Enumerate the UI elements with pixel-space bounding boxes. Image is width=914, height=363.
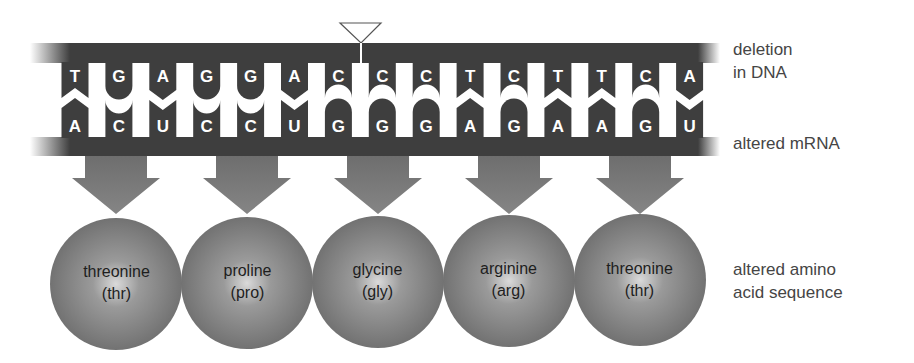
svg-text:C: C [420,67,432,86]
svg-text:T: T [465,67,476,86]
dna-base-T: T [457,62,484,98]
amino-acid-label: altered amino acid sequence [733,258,843,304]
dna-base-C: C [369,62,396,98]
dna-base-A: A [281,62,308,100]
dna-base-C: C [632,62,659,98]
svg-text:C: C [332,67,344,86]
svg-text:A: A [288,67,300,86]
dna-strand: TGAGGACCCTCTTCA [30,43,720,100]
dna-base-G: G [237,62,264,100]
mrna-base-U: U [149,100,176,138]
svg-text:C: C [508,67,520,86]
amino-acid-label-line2: acid sequence [733,281,843,304]
svg-text:U: U [683,117,695,136]
mrna-base-U: U [281,100,308,138]
svg-text:C: C [376,67,388,86]
dna-base-C: C [501,62,528,98]
svg-text:G: G [200,67,213,86]
down-arrow-icon [334,156,422,214]
svg-text:T: T [597,67,608,86]
amino-acid-1: threonine (thr) [51,261,182,305]
mrna-base-G: G [369,99,396,139]
amino-acid-name: threonine [574,258,705,280]
svg-text:A: A [596,117,608,136]
svg-text:T: T [70,67,81,86]
dna-base-T: T [62,62,89,98]
down-arrow-icon [203,156,291,214]
dna-base-C: C [325,62,352,98]
svg-text:C: C [640,67,652,86]
down-arrow-icon [465,156,553,214]
dna-base-C: C [413,62,440,98]
dna-base-G: G [193,62,220,100]
amino-acid-name: proline [182,260,313,282]
svg-text:U: U [288,117,300,136]
svg-text:G: G [332,117,345,136]
amino-acid-abbr: (arg) [443,280,574,302]
mrna-base-C: C [193,100,220,138]
amino-acid-4: arginine (arg) [443,258,574,302]
amino-acid-name: arginine [443,258,574,280]
svg-text:C: C [244,117,256,136]
svg-text:G: G [639,117,652,136]
dna-base-A: A [676,62,703,100]
dna-label: deletion in DNA [733,38,793,84]
mrna-base-G: G [632,99,659,139]
dna-label-line1: deletion [733,38,793,61]
svg-text:C: C [113,117,125,136]
frameshift-diagram: TGAGGACCCTCTTCA ACUCCUGGGAGAAGU deletion… [0,0,914,363]
amino-acid-abbr: (thr) [574,280,705,302]
amino-acid-5: threonine (thr) [574,258,705,302]
svg-text:G: G [112,67,125,86]
mrna-base-G: G [501,99,528,139]
svg-text:T: T [553,67,564,86]
amino-acid-abbr: (pro) [182,282,313,304]
mrna-base-C: C [105,100,132,138]
down-arrow-icon [596,156,684,214]
dna-base-A: A [149,62,176,100]
mrna-label: altered mRNA [733,132,840,155]
svg-text:G: G [376,117,389,136]
amino-acid-abbr: (thr) [51,283,182,305]
dna-label-line2: in DNA [733,61,793,84]
amino-acid-name: glycine [312,259,443,281]
mrna-base-A: A [62,98,89,138]
down-arrow-icon [72,156,160,214]
svg-text:A: A [157,67,169,86]
svg-text:U: U [157,117,169,136]
amino-acid-label-line1: altered amino [733,258,843,281]
dna-base-T: T [544,62,571,98]
mrna-base-A: A [588,98,615,138]
amino-acid-abbr: (gly) [312,281,443,303]
mrna-strand: ACUCCUGGGAGAAGU [30,98,720,156]
translation-arrows [72,156,684,214]
mrna-base-G: G [413,99,440,138]
mrna-base-C: C [237,100,264,138]
svg-text:A: A [464,117,476,136]
svg-text:G: G [244,67,257,86]
mrna-base-A: A [457,98,484,138]
amino-acid-name: threonine [51,261,182,283]
svg-text:A: A [683,67,695,86]
mrna-base-G: G [325,99,352,139]
svg-text:A: A [69,117,81,136]
dna-base-T: T [588,62,615,98]
amino-acid-2: proline (pro) [182,260,313,304]
dna-base-G: G [105,62,132,100]
svg-text:G: G [420,117,433,136]
svg-text:C: C [201,117,213,136]
svg-text:G: G [507,117,520,136]
mrna-base-A: A [544,98,571,138]
amino-acid-3: glycine (gly) [312,259,443,303]
mrna-base-U: U [676,100,703,138]
svg-text:A: A [552,117,564,136]
